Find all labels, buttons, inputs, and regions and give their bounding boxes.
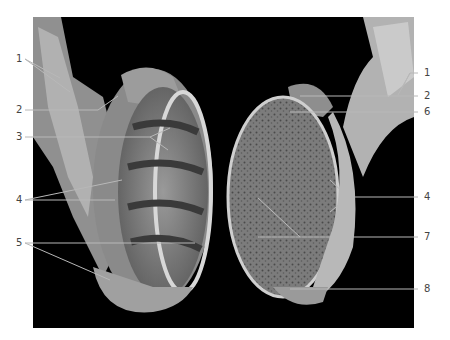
label-left-1: 1: [16, 54, 22, 64]
label-left-5: 5: [16, 238, 22, 248]
specimen-photo: [33, 17, 414, 328]
label-left-4: 4: [16, 195, 22, 205]
label-left-2: 2: [16, 105, 22, 115]
label-right-7: 7: [424, 232, 430, 242]
label-right-4: 4: [424, 192, 430, 202]
label-right-8: 8: [424, 284, 430, 294]
label-left-3: 3: [16, 132, 22, 142]
label-right-2: 2: [424, 91, 430, 101]
label-right-1: 1: [424, 68, 430, 78]
label-right-6: 6: [424, 107, 430, 117]
specimen-illustration: [33, 17, 414, 328]
